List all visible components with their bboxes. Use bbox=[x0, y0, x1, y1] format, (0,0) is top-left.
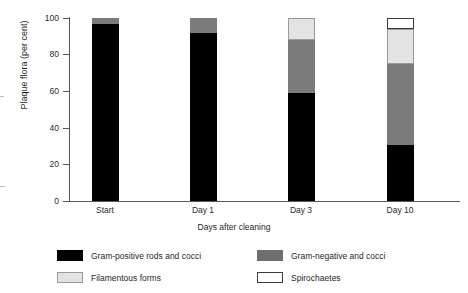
x-tick-label-day-10: Day 10 bbox=[365, 206, 435, 215]
plot-area bbox=[69, 18, 460, 201]
x-tick-label-day-3: Day 3 bbox=[266, 206, 336, 215]
stacked-bar-chart-figure: Plaque flora (per cent) 0 20 40 60 80 10… bbox=[0, 0, 468, 293]
bar-day-3-segment-filamentous-forms bbox=[288, 18, 315, 40]
legend-item-gram-negative-and-cocci: Gram-negative and cocci bbox=[257, 250, 386, 261]
legend-item-filamentous-forms: Filamentous forms bbox=[57, 272, 161, 283]
bar-day-3-segment-gram-negative-and-cocci bbox=[288, 40, 315, 93]
bar-day-1-segment-gram-negative-and-cocci bbox=[190, 18, 217, 33]
y-tick-label-60: 60 bbox=[31, 87, 59, 96]
x-axis-title: Days after cleaning bbox=[0, 222, 468, 232]
bar-day-1 bbox=[190, 18, 217, 201]
scan-artifact-left-lower bbox=[0, 186, 5, 187]
bar-day-10-segment-gram-negative-and-cocci bbox=[387, 64, 414, 145]
legend-item-spirochaetes: Spirochaetes bbox=[257, 272, 341, 283]
bar-day-10-segment-spirochaetes bbox=[387, 18, 414, 29]
legend-label-spirochaetes: Spirochaetes bbox=[291, 273, 341, 283]
bar-day-3 bbox=[288, 18, 315, 201]
bar-day-3-segment-gram-positive-rods-and-cocci bbox=[288, 93, 315, 201]
y-tick-0 bbox=[63, 201, 69, 202]
y-tick-label-80: 80 bbox=[31, 50, 59, 59]
legend-label-gram-positive-rods-and-cocci: Gram-positive rods and cocci bbox=[91, 251, 201, 261]
legend-item-gram-positive-rods-and-cocci: Gram-positive rods and cocci bbox=[57, 250, 201, 261]
bar-start-segment-gram-positive-rods-and-cocci bbox=[92, 24, 119, 202]
bar-day-10-segment-filamentous-forms bbox=[387, 29, 414, 64]
legend-swatch-spirochaetes-icon bbox=[257, 272, 283, 283]
y-tick-label-0: 0 bbox=[31, 197, 59, 206]
y-axis-title: Plaque flora (per cent) bbox=[19, 5, 29, 125]
legend-swatch-gram-positive-icon bbox=[57, 250, 83, 261]
bar-start bbox=[92, 18, 119, 201]
y-tick-label-100: 100 bbox=[31, 14, 59, 23]
bar-day-1-segment-gram-positive-rods-and-cocci bbox=[190, 33, 217, 201]
x-tick-label-day-1: Day 1 bbox=[168, 206, 238, 215]
legend-label-filamentous-forms: Filamentous forms bbox=[91, 273, 161, 283]
x-tick-label-start: Start bbox=[70, 206, 140, 215]
y-tick-label-20: 20 bbox=[31, 160, 59, 169]
legend-swatch-filamentous-icon bbox=[57, 272, 83, 283]
legend-swatch-gram-negative-icon bbox=[257, 250, 283, 261]
y-tick-label-40: 40 bbox=[31, 124, 59, 133]
scan-artifact-left-upper bbox=[0, 96, 4, 97]
bar-day-10-segment-gram-positive-rods-and-cocci bbox=[387, 145, 414, 201]
bar-day-10 bbox=[387, 18, 414, 201]
legend-label-gram-negative-and-cocci: Gram-negative and cocci bbox=[291, 251, 386, 261]
chart-legend: Gram-positive rods and cocci Gram-negati… bbox=[0, 250, 468, 290]
x-axis-line bbox=[69, 201, 460, 202]
